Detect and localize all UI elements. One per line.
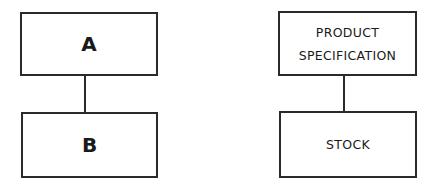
entity-label-product-specification: PRODUCT SPECIFICATION bbox=[299, 21, 396, 67]
entity-label-stock: STOCK bbox=[326, 133, 370, 156]
relationship-line-a-b bbox=[84, 76, 86, 112]
label-line: SPECIFICATION bbox=[299, 44, 396, 67]
relationship-line-product-stock bbox=[343, 76, 345, 111]
entity-box-a: A bbox=[20, 12, 158, 76]
entity-box-product-specification: PRODUCT SPECIFICATION bbox=[278, 11, 417, 76]
entity-box-stock: STOCK bbox=[279, 111, 417, 178]
entity-label-b: B bbox=[82, 133, 97, 157]
entity-label-a: A bbox=[81, 32, 96, 56]
label-line: PRODUCT bbox=[299, 21, 396, 44]
entity-box-b: B bbox=[21, 112, 158, 178]
